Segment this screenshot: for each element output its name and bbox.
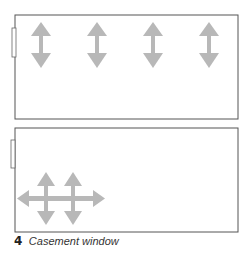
figure-number: 4 [14, 234, 22, 248]
bottom-window-panel [11, 128, 238, 232]
horizontal-arrow-shaft [26, 196, 96, 201]
vertical-double-arrow-icon [87, 22, 107, 68]
top-hinge-icon [12, 28, 16, 57]
top-window-panel [12, 15, 238, 119]
bottom-hinge-icon [11, 140, 15, 168]
vertical-double-arrow-icon [31, 22, 51, 68]
vertical-double-arrow-icon [199, 22, 219, 68]
figure-caption: 4 Casement window [14, 234, 119, 248]
figure-caption-text: Casement window [29, 235, 119, 247]
casement-window-diagram [0, 0, 241, 256]
left-arrowhead-icon [17, 190, 29, 207]
right-arrowhead-icon [93, 190, 105, 207]
vertical-arrows [31, 22, 219, 68]
vertical-double-arrow-icon [143, 22, 163, 68]
four-way-arrows [17, 172, 105, 225]
